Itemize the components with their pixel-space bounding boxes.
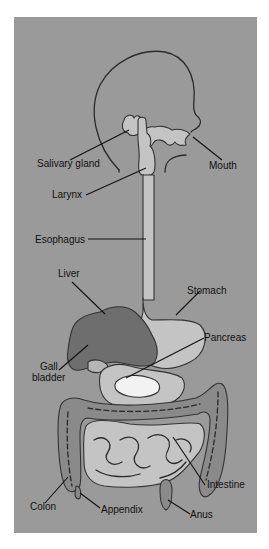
liver-leader xyxy=(72,282,105,314)
small-intestine xyxy=(84,421,205,488)
label-larynx: Larynx xyxy=(52,189,82,200)
rectum xyxy=(160,479,172,510)
label-pancreas: Pancreas xyxy=(204,332,246,343)
colon-leader xyxy=(45,477,68,503)
label-intestine: Intestine xyxy=(207,479,245,490)
label-bladder: bladder xyxy=(32,372,66,383)
label-mouth: Mouth xyxy=(209,160,237,171)
appendix-leader xyxy=(80,493,100,508)
label-appendix: Appendix xyxy=(101,504,143,515)
jaw-line xyxy=(165,155,186,172)
larynx-leader xyxy=(86,168,146,195)
label-gall: Gall xyxy=(40,361,58,372)
esophagus xyxy=(143,175,154,300)
label-anus: Anus xyxy=(190,509,213,520)
pancreas xyxy=(115,375,160,397)
label-colon: Colon xyxy=(30,501,56,512)
label-liver: Liver xyxy=(58,268,80,279)
salivary-gland-leader xyxy=(70,130,129,160)
larynx xyxy=(138,117,155,175)
anus-leader xyxy=(168,500,190,514)
mouth-leader xyxy=(193,137,222,160)
appendix xyxy=(75,486,81,499)
label-esophagus: Esophagus xyxy=(35,234,85,245)
label-stomach: Stomach xyxy=(187,285,226,296)
digestive-system-diagram: Salivary gland Mouth Larynx Esophagus Li… xyxy=(0,0,269,549)
label-salivary-gland: Salivary gland xyxy=(37,158,100,169)
